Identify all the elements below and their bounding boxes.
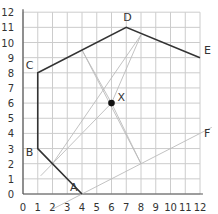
point-label-e: E: [204, 44, 211, 57]
x-tick: 6: [108, 202, 114, 213]
y-tick: 5: [8, 113, 14, 124]
point-x-marker: [108, 100, 115, 107]
x-tick: 9: [153, 202, 159, 213]
y-tick: 2: [8, 159, 14, 170]
point-label-f: F: [204, 127, 210, 140]
x-tick: 4: [79, 202, 85, 213]
x-tick: 2: [49, 202, 55, 213]
polygon-path: [38, 27, 200, 194]
x-tick: 12: [194, 202, 207, 213]
point-label-a: A: [70, 181, 78, 194]
point-label-c: C: [26, 59, 34, 72]
x-tick: 11: [179, 202, 192, 213]
x-tick: 1: [35, 202, 41, 213]
x-tick: 3: [64, 202, 70, 213]
y-tick: 3: [8, 144, 14, 155]
x-tick: 0: [20, 202, 26, 213]
y-tick: 4: [8, 128, 14, 139]
x-tick: 7: [123, 202, 129, 213]
y-tick: 8: [8, 68, 14, 79]
y-tick: 10: [1, 38, 14, 49]
point-label-d: D: [123, 11, 131, 24]
y-tick: 7: [8, 83, 14, 94]
y-tick: 9: [8, 53, 14, 64]
point-label-b: B: [26, 146, 34, 159]
x-tick: 10: [164, 202, 177, 213]
x-tick: 8: [138, 202, 144, 213]
coordinate-diagram: 01234567891011120123456789101112 ABCDEFX: [0, 0, 218, 214]
x-tick: 5: [94, 202, 100, 213]
point-label-x: X: [118, 91, 126, 104]
y-tick: 0: [8, 189, 14, 200]
y-tick: 1: [8, 174, 14, 185]
y-tick: 6: [8, 98, 14, 109]
y-tick: 12: [1, 7, 14, 18]
y-tick: 11: [1, 22, 14, 33]
